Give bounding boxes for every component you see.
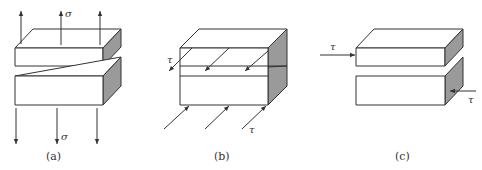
tau-label-bottom: τ — [249, 124, 255, 135]
upper-block-top-face — [356, 29, 463, 48]
panel-caption: (b) — [214, 150, 230, 163]
lower-block-front-face — [15, 76, 103, 105]
lower-block-side-face — [445, 57, 463, 105]
tau-label-bottom: τ — [468, 94, 474, 105]
panel-caption: (c) — [395, 150, 410, 163]
tau-label-top: τ — [167, 54, 173, 65]
panel-a: σ σ (a) — [15, 8, 121, 163]
shear-arrow-lower — [164, 106, 189, 129]
sigma-label-bottom: σ — [61, 131, 69, 142]
panel-c: τ τ (c) — [320, 29, 476, 163]
sigma-label-top: σ — [65, 8, 73, 19]
fracture-modes-diagram: σ σ (a) τ τ (b) τ — [0, 0, 482, 170]
tau-label-top: τ — [330, 41, 336, 52]
upper-block-front-face — [356, 48, 445, 66]
lower-block-front-face — [356, 76, 445, 105]
panel-caption: (a) — [46, 150, 61, 163]
panel-b: τ τ (b) — [164, 29, 287, 163]
shear-arrow-lower — [205, 106, 229, 129]
